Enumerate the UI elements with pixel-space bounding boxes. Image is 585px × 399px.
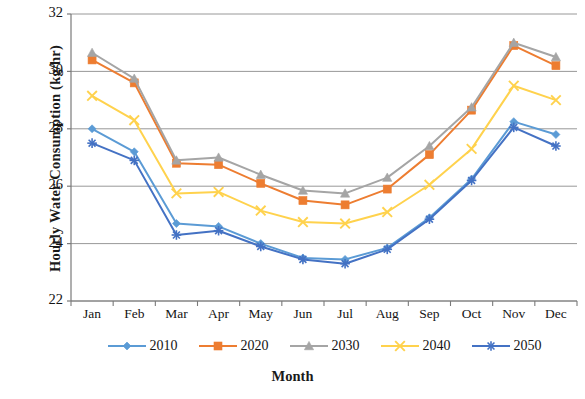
series-line <box>92 122 556 260</box>
data-point-marker <box>298 255 308 265</box>
data-point-marker <box>256 242 266 252</box>
legend-marker-diamond-icon <box>107 339 147 353</box>
marker-diamond <box>123 342 131 350</box>
data-point-marker <box>383 185 391 193</box>
marker-square <box>383 185 391 193</box>
line-chart: Hourly Water Consumption (kg/hr) 2224262… <box>0 0 585 399</box>
x-tick-label-dec: Dec <box>526 306 585 322</box>
data-point-marker <box>88 125 96 133</box>
data-point-marker <box>257 179 265 187</box>
legend-label: 2010 <box>150 338 178 354</box>
legend-marker-square-icon <box>198 339 238 353</box>
marker-square <box>88 56 96 64</box>
legend-marker-cross-icon <box>380 339 420 353</box>
y-tick-label: 30 <box>35 61 63 78</box>
data-point-marker <box>425 214 435 224</box>
legend-label: 2030 <box>332 338 360 354</box>
marker-triangle <box>87 48 96 56</box>
data-point-marker <box>425 151 433 159</box>
data-point-marker <box>340 259 350 269</box>
y-tick-label: 28 <box>35 119 63 136</box>
marker-square <box>299 197 307 205</box>
data-point-marker <box>214 342 222 350</box>
legend-label: 2040 <box>423 338 451 354</box>
legend-marker-triangle-icon <box>289 339 329 353</box>
plot-area <box>71 14 577 301</box>
marker-diamond <box>552 131 560 139</box>
legend-item-2030[interactable]: 2030 <box>289 338 360 354</box>
data-point-marker <box>382 245 392 255</box>
series-2050 <box>87 123 560 269</box>
y-tick-label: 26 <box>35 176 63 193</box>
data-point-marker <box>88 56 96 64</box>
data-point-marker <box>552 62 560 70</box>
data-point-marker <box>87 91 97 101</box>
legend-item-2020[interactable]: 2020 <box>198 338 269 354</box>
marker-square <box>214 342 222 350</box>
data-point-marker <box>129 115 139 125</box>
x-axis-title: Month <box>0 368 585 385</box>
y-tick-label: 22 <box>35 291 63 308</box>
data-point-marker <box>129 156 139 166</box>
marker-square <box>215 161 223 169</box>
legend-label: 2020 <box>241 338 269 354</box>
data-point-marker <box>551 141 561 151</box>
marker-triangle <box>130 74 139 82</box>
legend-item-2050[interactable]: 2050 <box>471 338 542 354</box>
series-2010 <box>88 118 560 264</box>
data-point-marker <box>172 230 182 240</box>
marker-square <box>341 201 349 209</box>
marker-square <box>257 179 265 187</box>
data-point-marker <box>486 341 496 351</box>
marker-square <box>552 62 560 70</box>
marker-diamond <box>88 125 96 133</box>
legend-item-2040[interactable]: 2040 <box>380 338 451 354</box>
data-point-marker <box>552 131 560 139</box>
data-point-marker <box>467 144 477 154</box>
data-point-marker <box>299 197 307 205</box>
y-tick-label: 32 <box>35 4 63 21</box>
legend-label: 2050 <box>514 338 542 354</box>
marker-square <box>425 151 433 159</box>
data-point-marker <box>214 226 224 236</box>
data-point-marker <box>87 48 96 56</box>
data-point-marker <box>130 74 139 82</box>
legend-item-2010[interactable]: 2010 <box>107 338 178 354</box>
data-point-marker <box>425 180 435 190</box>
series-2030 <box>87 38 560 197</box>
data-point-marker <box>87 138 97 148</box>
plot-svg <box>71 14 577 301</box>
y-axis-tick-labels: 222426283032 <box>33 14 63 301</box>
legend-marker-asterisk-icon <box>471 339 511 353</box>
data-point-marker <box>509 123 519 133</box>
data-point-marker <box>551 95 561 105</box>
data-point-marker <box>341 201 349 209</box>
series-line <box>92 43 556 194</box>
data-point-marker <box>467 176 477 186</box>
chart-legend: 20102020203020402050 <box>71 334 577 358</box>
x-axis-tick-labels: JanFebMarAprMayJunJulAugSepOctNovDec <box>71 306 577 328</box>
y-tick-label: 24 <box>35 234 63 251</box>
data-point-marker <box>509 81 519 91</box>
data-point-marker <box>215 161 223 169</box>
data-point-marker <box>123 342 131 350</box>
